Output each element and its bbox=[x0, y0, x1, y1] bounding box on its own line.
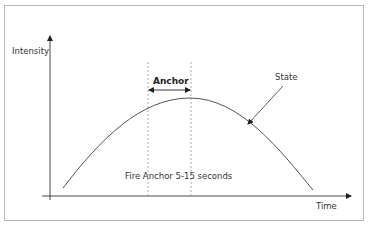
diagram-canvas bbox=[0, 0, 371, 230]
curve-label: State bbox=[275, 72, 298, 82]
y-axis-label: Intensity bbox=[12, 46, 49, 56]
fire-anchor-label: Fire Anchor 5-15 seconds bbox=[125, 171, 232, 181]
x-axis-label: Time bbox=[316, 201, 337, 211]
state-pointer-arrow bbox=[248, 86, 283, 124]
anchor-label: Anchor bbox=[153, 76, 189, 86]
